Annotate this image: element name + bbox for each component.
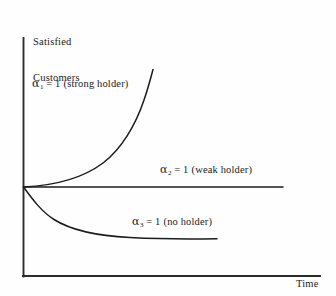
- alpha-value-3: = 1: [145, 216, 160, 227]
- annotation-weak-holder: α2= 1(weak holder): [160, 163, 252, 177]
- alpha-symbol-2: α: [160, 163, 168, 176]
- figure-canvas: Satisfied Customers Time α1= 1(strong ho…: [0, 0, 336, 296]
- annotation-text-no-holder: (no holder): [161, 216, 213, 227]
- y-axis-label: Satisfied Customers: [33, 12, 80, 108]
- alpha-symbol-1: α: [32, 77, 40, 90]
- annotation-no-holder: α3= 1(no holder): [132, 215, 212, 229]
- alpha-symbol-3: α: [132, 215, 140, 228]
- annotation-text-strong-holder: (strong holder): [61, 78, 129, 89]
- y-axis-label-line1: Satisfied: [33, 36, 80, 48]
- annotation-text-weak-holder: (weak holder): [189, 164, 253, 175]
- alpha-value-2: = 1: [173, 164, 188, 175]
- x-axis-label: Time: [296, 278, 319, 290]
- curve-no-holder: [24, 187, 218, 239]
- annotation-strong-holder: α1= 1(strong holder): [32, 77, 128, 91]
- alpha-value-1: = 1: [45, 78, 60, 89]
